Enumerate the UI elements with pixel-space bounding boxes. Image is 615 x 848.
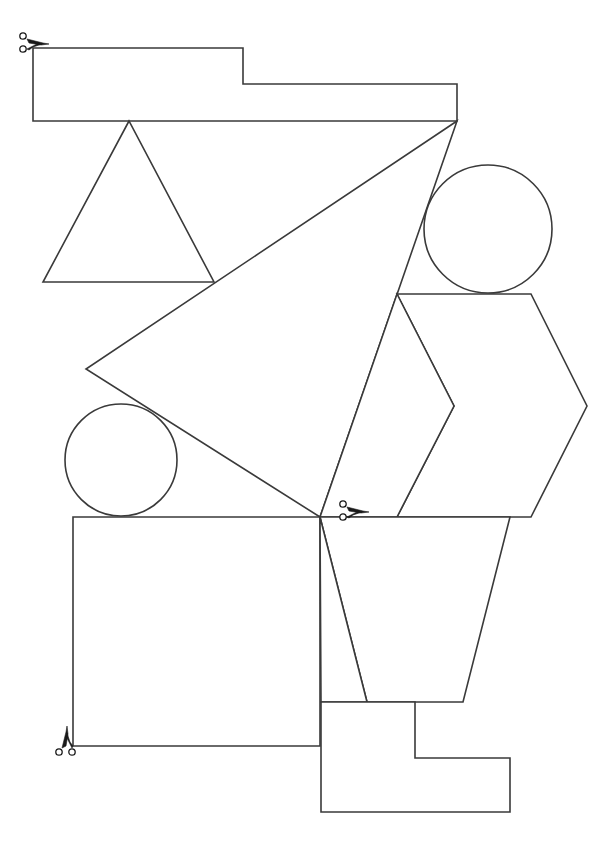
l-block [321, 702, 510, 812]
shapes-layer [33, 48, 587, 812]
lower-circle [65, 404, 177, 516]
small-triangle [43, 121, 214, 282]
square [73, 517, 320, 746]
stepped-bar [33, 48, 457, 121]
diagram-canvas [0, 0, 615, 848]
upper-circle [424, 165, 552, 293]
